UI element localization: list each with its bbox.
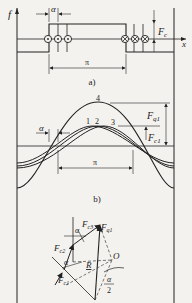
mmf-waveform-diagram: f x: [0, 0, 192, 303]
center-label: O: [113, 251, 120, 261]
panel-c: Fc1 Fc2 Fc3 Fq1 O R α α α 2: [52, 217, 124, 300]
curve-label-2: 2: [95, 117, 99, 126]
curve-label-1: 1: [86, 117, 90, 126]
radius-label: R: [85, 260, 92, 270]
f-axis-arrow-icon: [15, 8, 19, 14]
fq1-label: Fq1: [146, 110, 160, 123]
alpha-label-a: α: [51, 4, 56, 14]
fc1-label: Fc1: [147, 132, 161, 145]
x-axis-label: x: [181, 39, 186, 49]
curve-label-4: 4: [96, 94, 100, 103]
caption-a: a): [89, 77, 96, 87]
fc2-label-c: Fc2: [53, 243, 65, 254]
pitch-label-b: π: [93, 158, 97, 167]
panel-a: f x: [8, 4, 186, 303]
conductors-in: [121, 35, 148, 42]
radius-dashed: [73, 260, 112, 262]
pitch-label-a: π: [85, 58, 89, 67]
alpha-label-b: α: [39, 123, 44, 133]
alpha-label-c1: α: [75, 226, 80, 235]
panel-b: 1 2 3 4 Fq1 Fc1 α π b): [17, 94, 174, 204]
f-axis-label: f: [8, 8, 13, 20]
conductors-out: [44, 35, 71, 42]
half-alpha-denominator: 2: [107, 286, 111, 295]
half-alpha-numerator: α: [107, 275, 112, 284]
curve-label-3: 3: [111, 118, 115, 127]
caption-b: b): [93, 194, 101, 204]
fq1-vector-icon: [95, 226, 100, 300]
rectangular-mmf-wave: [17, 24, 174, 52]
fc-label: Fc: [157, 26, 168, 39]
fc3-label-c: Fc3: [81, 219, 93, 230]
